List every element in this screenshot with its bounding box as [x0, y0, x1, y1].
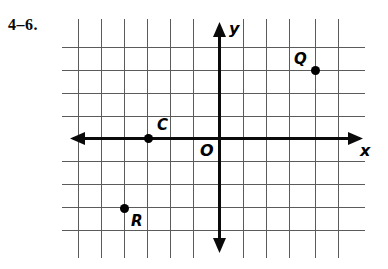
point-label-q: Q	[294, 52, 307, 67]
x-axis-left-arrowhead	[70, 132, 85, 145]
point-label-r: R	[131, 214, 143, 229]
origin-label: O	[200, 143, 214, 159]
point-dot-r	[120, 204, 129, 213]
graph-figure: 4–6.	[0, 0, 388, 269]
point-label-c: C	[157, 118, 168, 133]
coordinate-plane: y x O Q C R	[0, 0, 388, 269]
point-dot-q	[311, 66, 320, 75]
y-axis-top-arrowhead	[213, 22, 226, 37]
x-axis-label: x	[360, 143, 370, 159]
axes-svg	[0, 0, 388, 269]
y-axis-bottom-arrowhead	[213, 238, 226, 253]
y-axis-label: y	[229, 21, 239, 37]
point-dot-c	[144, 134, 153, 143]
